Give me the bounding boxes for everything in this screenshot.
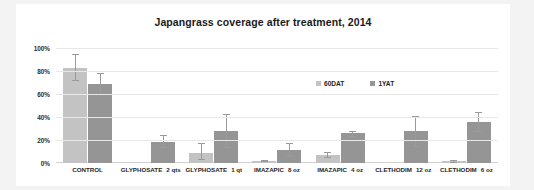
bar-group	[119, 48, 182, 163]
error-bar	[163, 135, 164, 148]
error-bar	[415, 116, 416, 147]
x-tick-label: CONTROL	[56, 166, 119, 173]
legend-swatch-icon	[370, 81, 375, 86]
error-bar	[478, 112, 479, 132]
bar-slot	[126, 48, 150, 163]
gridline	[56, 71, 498, 72]
legend-item[interactable]: 60DAT	[316, 80, 344, 87]
bar-group	[435, 48, 498, 163]
bar-1yat[interactable]	[341, 133, 365, 163]
x-tick-label: IMAZAPIC8 oz	[245, 166, 308, 173]
chart-title: Japangrass coverage after treatment, 201…	[16, 16, 510, 28]
gridline	[56, 140, 498, 141]
x-tick-rate: 6 oz	[481, 166, 493, 173]
error-bar	[327, 152, 328, 159]
y-tick-label: 100%	[34, 45, 50, 52]
bar-slot	[341, 48, 365, 163]
bar-60dat[interactable]	[63, 68, 87, 163]
x-tick-name: GLYPHOSATE	[186, 166, 228, 173]
error-bar	[453, 160, 454, 163]
bar-slot	[404, 48, 428, 163]
chart-panel: Japangrass coverage after treatment, 201…	[16, 4, 510, 186]
bar-slot	[277, 48, 301, 163]
error-bar	[289, 143, 290, 157]
x-tick-name: IMAZAPIC	[254, 166, 284, 173]
x-tick-rate: 4 oz	[351, 166, 363, 173]
x-tick-label: IMAZAPIC4 oz	[309, 166, 372, 173]
legend-swatch-icon	[316, 81, 321, 86]
legend-label: 60DAT	[324, 80, 344, 87]
x-tick-label: GLYPHOSATE1 qt	[182, 166, 245, 173]
x-tick-name: IMAZAPIC	[317, 166, 347, 173]
x-tick-label: CLETHODIM6 oz	[435, 166, 498, 173]
bar-group	[309, 48, 372, 163]
gridline	[56, 48, 498, 49]
error-bar	[201, 143, 202, 159]
x-tick-name: CLETHODIM	[440, 166, 477, 173]
bar-slot	[88, 48, 112, 163]
error-bar	[264, 160, 265, 162]
error-bar	[226, 114, 227, 149]
plot-area	[56, 48, 498, 163]
bar-slot	[467, 48, 491, 163]
bar-slot	[316, 48, 340, 163]
x-axis: CONTROLGLYPHOSATE2 qtsGLYPHOSATE1 qtIMAZ…	[56, 166, 498, 173]
y-tick-label: 40%	[37, 114, 50, 121]
gridline	[56, 117, 498, 118]
bar-group	[245, 48, 308, 163]
x-tick-rate: 8 oz	[288, 166, 300, 173]
gridline	[56, 94, 498, 95]
bar-slot	[63, 48, 87, 163]
bar-slot	[214, 48, 238, 163]
x-tick-rate: 12 oz	[416, 166, 431, 173]
x-tick-label: CLETHODIM12 oz	[372, 166, 435, 173]
y-tick-label: 20%	[37, 137, 50, 144]
x-tick-label: GLYPHOSATE2 qts	[119, 166, 182, 173]
error-bar	[352, 131, 353, 137]
bar-slot	[189, 48, 213, 163]
bar-group	[372, 48, 435, 163]
y-axis: 0%20%40%60%80%100%	[16, 48, 52, 163]
bar-slot	[442, 48, 466, 163]
error-bar	[75, 54, 76, 82]
x-tick-name: GLYPHOSATE	[121, 166, 163, 173]
error-bar	[100, 73, 101, 95]
y-tick-label: 80%	[37, 68, 50, 75]
chart-legend: 60DAT1YAT	[316, 80, 394, 87]
bar-groups	[56, 48, 498, 163]
y-tick-label: 0%	[41, 160, 50, 167]
bar-group	[56, 48, 119, 163]
bar-group	[182, 48, 245, 163]
legend-label: 1YAT	[378, 80, 394, 87]
bar-slot	[252, 48, 276, 163]
x-tick-name: CLETHODIM	[375, 166, 412, 173]
x-tick-rate: 2 qts	[166, 166, 180, 173]
bar-1yat[interactable]	[88, 84, 112, 163]
legend-item[interactable]: 1YAT	[370, 80, 394, 87]
bar-slot	[151, 48, 175, 163]
bar-slot	[379, 48, 403, 163]
chart-page: Japangrass coverage after treatment, 201…	[0, 0, 534, 190]
x-tick-name: CONTROL	[72, 166, 103, 173]
x-tick-rate: 1 qt	[231, 166, 242, 173]
y-tick-label: 60%	[37, 91, 50, 98]
